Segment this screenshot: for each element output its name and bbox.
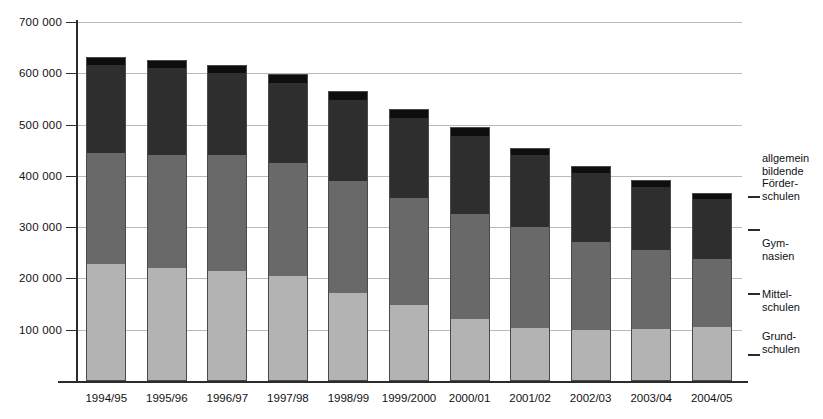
- bar-segment-grundschulen: [510, 328, 550, 381]
- x-axis-tick-label: 2004/05: [691, 392, 733, 404]
- bar-segment-gymnasien: [86, 65, 126, 153]
- y-axis-tick-mark: [66, 73, 78, 74]
- bar-1995-96[interactable]: [147, 60, 187, 381]
- bar-segment-gymnasien: [147, 68, 187, 156]
- x-axis-tick-label: 1997/98: [267, 392, 309, 404]
- bar-segment-gymnasien: [571, 173, 611, 242]
- bar-2001-02[interactable]: [510, 148, 550, 381]
- y-axis-tick-label: 700 000: [19, 16, 62, 28]
- legend-entry-förderschulen: allgemein bildende Förder- schulen: [762, 152, 823, 202]
- legend-leader-line: [748, 354, 760, 356]
- y-axis-tick-mark: [66, 227, 78, 228]
- bar-segment-mittelschulen: [510, 227, 550, 328]
- y-axis-tick-label: 200 000: [19, 272, 62, 284]
- x-axis-tick-label: 2002/03: [570, 392, 612, 404]
- y-axis-tick-label: 500 000: [19, 119, 62, 131]
- bar-segment-mittelschulen: [207, 155, 247, 270]
- bar-segment-mittelschulen: [389, 198, 429, 304]
- bar-segment-grundschulen: [86, 264, 126, 381]
- bar-segment-grundschulen: [631, 329, 671, 381]
- bar-2003-04[interactable]: [631, 180, 671, 381]
- bar-1996-97[interactable]: [207, 65, 247, 381]
- bar-segment-grundschulen: [268, 276, 308, 381]
- bar-segment-mittelschulen: [86, 153, 126, 264]
- bar-segment-grundschulen: [207, 271, 247, 381]
- bar-segment-gymnasien: [268, 83, 308, 163]
- y-axis-tick-label: 600 000: [19, 67, 62, 79]
- bar-segment-grundschulen: [147, 268, 187, 381]
- bar-segment-gymnasien: [631, 187, 671, 250]
- y-axis-tick-mark: [66, 330, 78, 331]
- plot-area: [76, 22, 742, 381]
- bar-segment-mittelschulen: [450, 214, 490, 319]
- legend-leader-line: [748, 196, 760, 198]
- y-axis-tick-mark: [66, 22, 78, 23]
- bar-1997-98[interactable]: [268, 74, 308, 381]
- bar-segment-mittelschulen: [631, 250, 671, 329]
- bar-group: [76, 22, 742, 381]
- bar-segment-mittelschulen: [692, 259, 732, 327]
- bar-segment-förderschulen: [571, 166, 611, 173]
- bar-segment-mittelschulen: [268, 163, 308, 277]
- y-axis-tick-label: 300 000: [19, 221, 62, 233]
- legend-entry-grundschulen: Grund- schulen: [762, 330, 823, 355]
- bar-segment-gymnasien: [692, 199, 732, 258]
- bar-segment-gymnasien: [207, 73, 247, 155]
- legend-label: allgemein bildende Förder- schulen: [762, 152, 823, 202]
- bar-segment-grundschulen: [692, 327, 732, 381]
- bar-segment-förderschulen: [147, 60, 187, 68]
- x-axis-line: [58, 381, 748, 383]
- legend-entry-gymnasien: Gym- nasien: [762, 237, 823, 262]
- y-axis-tick-mark: [66, 125, 78, 126]
- bar-segment-gymnasien: [328, 100, 368, 181]
- x-axis-tick-label: 2003/04: [630, 392, 672, 404]
- legend-label: Grund- schulen: [762, 330, 823, 355]
- bar-2004-05[interactable]: [692, 193, 732, 381]
- legend-leader-line: [748, 293, 760, 295]
- x-axis-tick-label: 1998/99: [328, 392, 370, 404]
- legend-entry-mittelschulen: Mittel- schulen: [762, 288, 823, 313]
- y-axis-tick-mark: [66, 278, 78, 279]
- bar-segment-mittelschulen: [328, 181, 368, 293]
- legend-label: Gym- nasien: [762, 237, 823, 262]
- x-axis-tick-label: 1995/96: [146, 392, 188, 404]
- bar-segment-gymnasien: [389, 118, 429, 199]
- stacked-bar-chart: 700 000600 000500 000400 000300 000200 0…: [0, 0, 823, 419]
- bar-2000-01[interactable]: [450, 127, 490, 381]
- bar-segment-grundschulen: [571, 330, 611, 381]
- x-axis-tick-label: 2000/01: [449, 392, 491, 404]
- x-axis-tick-label: 1996/97: [207, 392, 249, 404]
- y-axis-tick-label: 100 000: [19, 324, 62, 336]
- y-axis-tick-mark: [66, 176, 78, 177]
- bar-1994-95[interactable]: [86, 57, 126, 381]
- bar-1998-99[interactable]: [328, 91, 368, 381]
- bar-1999-2000[interactable]: [389, 109, 429, 381]
- bar-segment-grundschulen: [389, 305, 429, 381]
- bar-segment-förderschulen: [328, 91, 368, 100]
- bar-segment-förderschulen: [692, 193, 732, 200]
- bar-2002-03[interactable]: [571, 166, 611, 381]
- bar-segment-förderschulen: [86, 57, 126, 65]
- legend-label: Mittel- schulen: [762, 288, 823, 313]
- bar-segment-gymnasien: [510, 155, 550, 227]
- x-axis-labels: 1994/951995/961996/971997/981998/991999/…: [76, 392, 742, 414]
- bar-segment-grundschulen: [328, 293, 368, 381]
- bar-segment-förderschulen: [450, 127, 490, 136]
- bar-segment-förderschulen: [631, 180, 671, 187]
- bar-segment-mittelschulen: [147, 155, 187, 267]
- bar-segment-mittelschulen: [571, 242, 611, 330]
- y-axis-tick-label: 400 000: [19, 170, 62, 182]
- chart-legend: allgemein bildende Förder- schulenGym- n…: [748, 0, 823, 419]
- bar-segment-gymnasien: [450, 136, 490, 214]
- bar-segment-förderschulen: [389, 109, 429, 118]
- x-axis-tick-label: 2001/02: [509, 392, 551, 404]
- y-axis-labels: 700 000600 000500 000400 000300 000200 0…: [0, 0, 62, 419]
- bar-segment-förderschulen: [207, 65, 247, 73]
- bar-segment-förderschulen: [510, 148, 550, 156]
- legend-leader-line: [748, 229, 760, 231]
- x-axis-tick-label: 1994/95: [85, 392, 127, 404]
- bar-segment-förderschulen: [268, 74, 308, 82]
- x-axis-tick-label: 1999/2000: [382, 392, 436, 404]
- bar-segment-grundschulen: [450, 319, 490, 381]
